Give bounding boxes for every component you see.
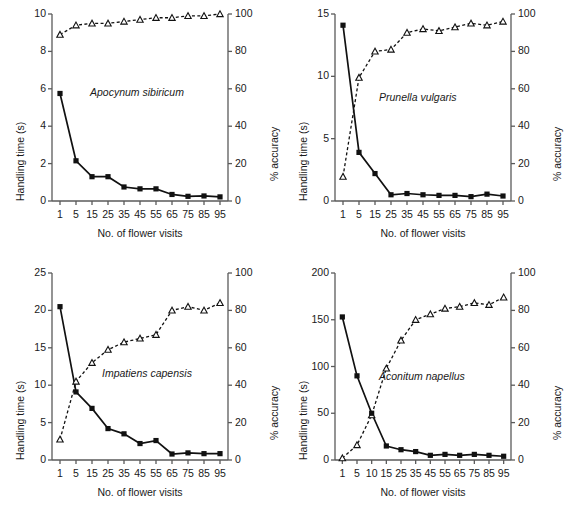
handling-time-marker <box>73 158 78 163</box>
x-axis-title: No. of flower visits <box>335 486 511 498</box>
handling-time-marker <box>500 193 505 198</box>
handling-time-marker <box>201 193 206 198</box>
handling-time-marker <box>484 192 489 197</box>
accuracy-marker <box>372 48 378 54</box>
chart-panel-2: 05101502040608010015152535455565758595Ha… <box>283 0 566 259</box>
handling-time-marker <box>428 453 433 458</box>
y-axis-title-left: Handling time (s) <box>14 381 26 460</box>
accuracy-marker <box>339 455 345 461</box>
handling-time-marker <box>105 174 110 179</box>
y-tick-label-right: 20 <box>518 157 548 169</box>
accuracy-marker <box>217 300 223 306</box>
chart-panel-1: 024681002040608010015152535455565758595H… <box>0 0 283 259</box>
accuracy-marker <box>412 317 418 323</box>
x-axis-title: No. of flower visits <box>52 227 228 239</box>
accuracy-marker <box>73 22 79 28</box>
handling-time-marker <box>436 193 441 198</box>
handling-time-marker <box>121 184 126 189</box>
y-axis-title-left: Handling time (s) <box>297 122 309 201</box>
y-tick-label-left: 15 <box>10 341 46 353</box>
figure-panel-grid: 024681002040608010015152535455565758595H… <box>0 0 566 518</box>
x-tick-label: 95 <box>208 208 232 220</box>
y-tick-label-right: 100 <box>235 266 265 278</box>
accuracy-marker <box>185 303 191 309</box>
handling-time-marker <box>413 449 418 454</box>
x-tick-label: 95 <box>491 208 515 220</box>
accuracy-marker <box>356 74 362 80</box>
accuracy-marker <box>442 305 448 311</box>
panel-species-title: Prunella vulgaris <box>379 91 457 103</box>
y-tick-label-right: 40 <box>518 119 548 131</box>
accuracy-marker <box>169 15 175 21</box>
y-tick-label-right: 60 <box>235 82 265 94</box>
handling-time-marker <box>121 431 126 436</box>
y-tick-label-right: 100 <box>518 266 548 278</box>
accuracy-marker <box>340 173 346 179</box>
handling-time-marker <box>354 373 359 378</box>
handling-time-marker <box>137 441 142 446</box>
y-tick-label-right: 0 <box>518 453 548 465</box>
handling-time-marker <box>185 194 190 199</box>
accuracy-marker <box>121 18 127 24</box>
accuracy-marker <box>57 436 63 442</box>
y-tick-label-right: 0 <box>518 194 548 206</box>
y-tick-label-left: 15 <box>293 7 329 19</box>
chart-panel-3: 0510152025020406080100151525354555657585… <box>0 259 283 518</box>
handling-time-marker <box>442 452 447 457</box>
y-tick-label-right: 40 <box>235 378 265 390</box>
handling-time-marker <box>217 194 222 199</box>
accuracy-marker <box>153 15 159 21</box>
x-axis-title: No. of flower visits <box>335 227 511 239</box>
handling-time-marker <box>486 453 491 458</box>
handling-time-marker <box>73 389 78 394</box>
accuracy-marker <box>169 307 175 313</box>
handling-time-marker <box>185 450 190 455</box>
handling-time-marker <box>57 304 62 309</box>
handling-time-marker <box>105 426 110 431</box>
accuracy-marker <box>201 13 207 19</box>
handling-time-marker <box>169 192 174 197</box>
handling-time-marker <box>388 192 393 197</box>
panel-species-title: Impatiens capensis <box>102 367 192 379</box>
y-tick-label-right: 20 <box>235 416 265 428</box>
y-tick-label-left: 20 <box>10 303 46 315</box>
y-tick-label-left: 150 <box>293 313 329 325</box>
y-tick-label-right: 0 <box>235 194 265 206</box>
handling-time-marker <box>472 452 477 457</box>
handling-time-marker <box>153 186 158 191</box>
handling-time-marker <box>340 23 345 28</box>
y-tick-label-left: 100 <box>293 360 329 372</box>
accuracy-marker <box>217 11 223 17</box>
accuracy-marker <box>105 346 111 352</box>
y-tick-label-right: 80 <box>518 44 548 56</box>
accuracy-marker <box>500 18 506 24</box>
x-axis-title: No. of flower visits <box>52 486 228 498</box>
handling-time-marker <box>384 443 389 448</box>
accuracy-marker <box>404 30 410 36</box>
accuracy-marker <box>137 16 143 22</box>
x-tick-label: 95 <box>492 467 516 479</box>
accuracy-marker <box>201 307 207 313</box>
chart-panel-4: 0501001502000204060801001510152535455565… <box>283 259 566 518</box>
y-tick-label-right: 100 <box>235 7 265 19</box>
y-tick-label-left: 25 <box>10 266 46 278</box>
accuracy-marker <box>500 294 506 300</box>
panel-species-title: Apocynum sibiricum <box>90 86 184 98</box>
y-tick-label-left: 200 <box>293 266 329 278</box>
handling-time-marker <box>340 314 345 319</box>
accuracy-marker <box>388 46 394 52</box>
y-axis-title-right: % accuracy <box>268 127 280 181</box>
handling-time-marker <box>57 91 62 96</box>
y-tick-label-right: 0 <box>235 453 265 465</box>
y-tick-label-right: 80 <box>235 44 265 56</box>
y-tick-label-right: 80 <box>518 303 548 315</box>
handling-time-marker <box>369 411 374 416</box>
accuracy-marker <box>105 20 111 26</box>
y-tick-label-right: 40 <box>235 119 265 131</box>
handling-time-marker <box>169 451 174 456</box>
handling-time-marker <box>89 406 94 411</box>
handling-time-marker <box>137 186 142 191</box>
y-axis-title-left: Handling time (s) <box>297 381 309 460</box>
y-tick-label-right: 60 <box>518 341 548 353</box>
handling-time-marker <box>501 454 506 459</box>
